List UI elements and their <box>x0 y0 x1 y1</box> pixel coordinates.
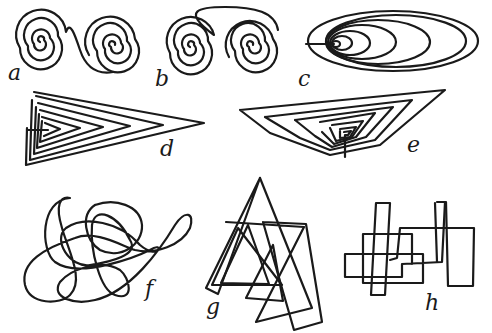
label-d: d <box>160 138 174 160</box>
label-b: b <box>155 68 169 90</box>
label-a: a <box>8 62 21 84</box>
drawing-g-triangles <box>206 178 322 330</box>
drawing-c-elliptical-spiral <box>306 11 478 71</box>
label-h: h <box>425 292 439 314</box>
drawing-d-triangular-spiral <box>26 92 204 165</box>
figure: a b c d e f g h <box>0 0 492 333</box>
label-c: c <box>298 68 310 90</box>
label-e: e <box>407 134 420 156</box>
drawing-f-tangle <box>24 198 191 302</box>
drawing-h-rectangles <box>345 202 474 295</box>
drawing-a-double-spiral-s-curve <box>16 10 139 73</box>
label-f: f <box>145 278 153 300</box>
label-g: g <box>206 296 220 318</box>
drawing-b-double-spiral-arc <box>167 7 278 74</box>
